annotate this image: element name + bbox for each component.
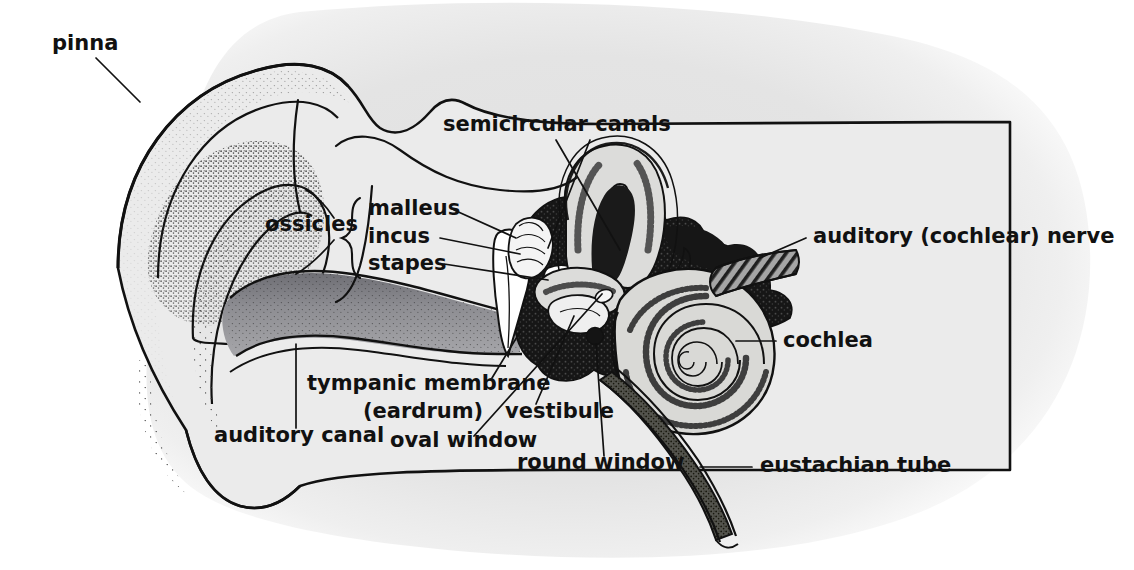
label-malleus: malleus [368, 196, 460, 220]
label-pinna: pinna [52, 31, 118, 55]
label-tympanic-membrane: tympanic membrane [307, 371, 550, 395]
label-round-window: round window [517, 450, 684, 474]
label-oval-window: oval window [390, 428, 537, 452]
label-eardrum: (eardrum) [363, 399, 483, 423]
label-stapes: stapes [368, 251, 446, 275]
label-eustachian-tube: eustachian tube [760, 453, 951, 477]
ear-diagram-canvas: pinna semicircular canals ossicles malle… [0, 0, 1134, 570]
label-cochlea: cochlea [783, 328, 873, 352]
label-auditory-nerve: auditory (cochlear) nerve [813, 224, 1114, 248]
round-window-structure [587, 328, 604, 345]
label-ossicles: ossicles [265, 212, 358, 236]
leader-pinna [96, 58, 140, 102]
label-auditory-canal: auditory canal [214, 423, 384, 447]
label-vestibule: vestibule [505, 399, 614, 423]
label-semicircular-canals: semicircular canals [443, 112, 671, 136]
label-incus: incus [368, 224, 430, 248]
ear-anatomy-figure: pinna semicircular canals ossicles malle… [0, 0, 1134, 570]
